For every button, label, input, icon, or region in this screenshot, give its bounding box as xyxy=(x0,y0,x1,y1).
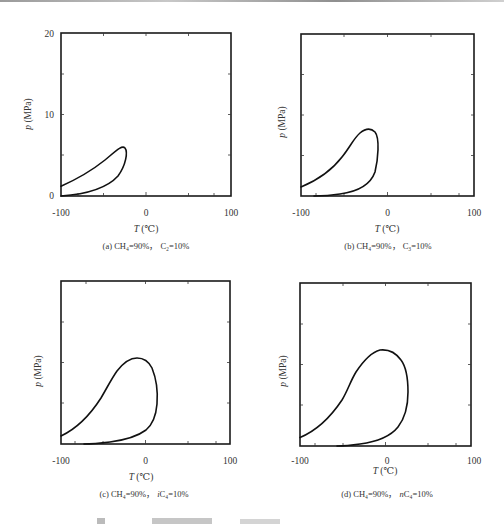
panel-a: 0 10 20 -100 0 100 T (℃) p (MPa) (a) CH₄… xyxy=(23,29,238,251)
x-tick-label-0: 0 xyxy=(144,208,149,218)
panel-b: -100 0 100 T (℃) p (MPa) (b) CH₄=90%， C₃… xyxy=(277,34,481,251)
x-tick-label-neg100: -100 xyxy=(52,208,70,218)
x-tick-label-neg100: -100 xyxy=(292,208,310,218)
y-tick-label-10: 10 xyxy=(45,110,55,120)
y-axis-label: p (MPa) xyxy=(33,355,44,387)
x-tick-label-neg100: -100 xyxy=(291,456,309,466)
plot-frame xyxy=(61,33,231,196)
y-tick-label-0: 0 xyxy=(49,191,54,201)
x-tick-label-100: 100 xyxy=(467,208,482,218)
x-tick-label-neg100: -100 xyxy=(52,456,70,466)
figure-caption-cropped xyxy=(97,518,280,524)
y-tick-label-20: 20 xyxy=(45,29,55,39)
x-tick-label-100: 100 xyxy=(223,456,238,466)
panel-caption: (d) CH₄=90%， nC₄=10% xyxy=(341,489,433,499)
x-axis-label: T (℃) xyxy=(134,224,159,235)
x-tick-label-0: 0 xyxy=(385,208,390,218)
phase-envelope-curve xyxy=(61,358,157,444)
y-ticks xyxy=(301,75,474,156)
panel-caption: (a) CH₄=90%， C₂=10% xyxy=(103,241,190,251)
x-tick-label-0: 0 xyxy=(385,456,390,466)
panel-c: -100 0 100 T (℃) p (MPa) (c) CH₄=90%， iC… xyxy=(33,281,237,499)
y-axis-label: p (MPa) xyxy=(277,106,288,138)
y-axis-label: p (MPa) xyxy=(23,98,34,130)
x-ticks xyxy=(315,283,456,446)
x-ticks xyxy=(78,33,214,196)
phase-envelope-curve xyxy=(300,350,408,446)
x-axis-label: T (℃) xyxy=(375,224,400,235)
x-tick-label-100: 100 xyxy=(467,456,482,466)
x-ticks xyxy=(75,281,216,444)
y-ticks xyxy=(300,324,471,405)
x-tick-label-0: 0 xyxy=(143,456,148,466)
x-ticks xyxy=(316,34,459,196)
phase-envelope-curve xyxy=(61,147,126,196)
panel-caption: (b) CH₄=90%， C₃=10% xyxy=(344,241,431,251)
panel-d: -100 0 100 T (℃) p (MPa) (d) CH₄=90%， nC… xyxy=(278,283,481,499)
plot-frame xyxy=(61,281,230,444)
y-ticks xyxy=(61,74,231,155)
x-axis-label: T (℃) xyxy=(129,472,154,483)
panel-caption: (c) CH₄=90%， iC₄=10% xyxy=(99,489,188,499)
x-axis-label: T (℃) xyxy=(373,466,398,477)
phase-envelope-figure: 0 10 20 -100 0 100 T (℃) p (MPa) (a) CH₄… xyxy=(0,0,504,524)
phase-envelope-curve xyxy=(301,129,378,196)
y-axis-label: p (MPa) xyxy=(278,355,289,387)
y-ticks xyxy=(61,322,230,403)
x-tick-label-100: 100 xyxy=(224,208,239,218)
plot-frame xyxy=(300,283,471,446)
